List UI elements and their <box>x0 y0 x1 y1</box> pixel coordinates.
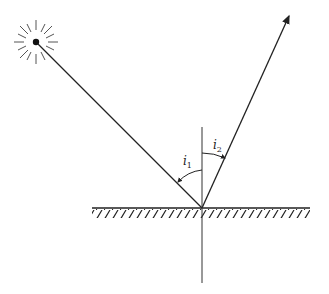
reflection-angle-label: i2 <box>213 138 222 154</box>
incidence-angle-arc <box>178 170 202 182</box>
incident-ray <box>38 44 202 208</box>
surface-hatching <box>92 209 310 218</box>
incidence-angle-label: i1 <box>183 154 192 170</box>
reflection-diagram: i1 i2 <box>0 0 329 294</box>
reflected-ray <box>202 16 289 208</box>
